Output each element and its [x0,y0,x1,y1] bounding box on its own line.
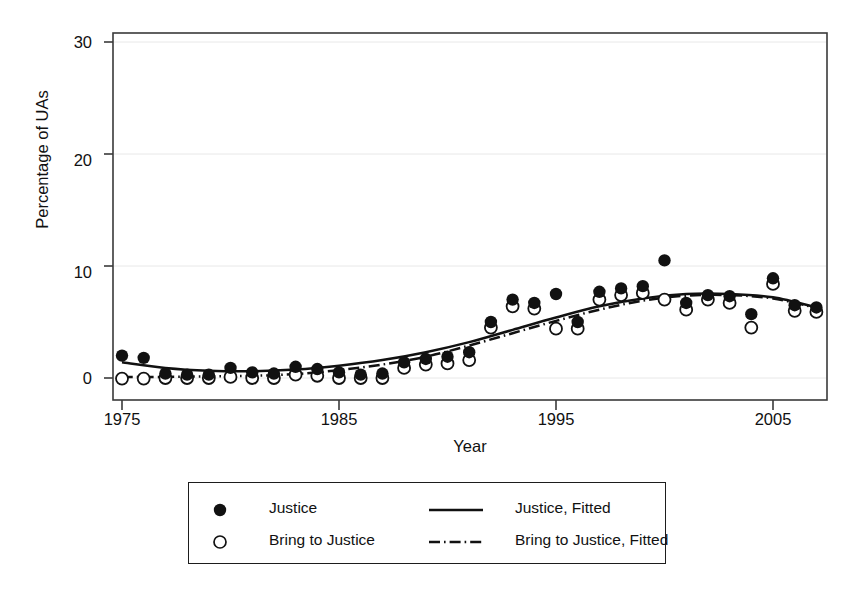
data-point [355,368,367,380]
data-point [268,367,280,379]
open-circle-marker [207,527,269,557]
data-point [659,294,671,306]
legend-entry-bring-to-justice: Bring to Justice [207,527,407,557]
data-point [637,280,649,292]
data-point [333,366,345,378]
dash-dot-line-key [411,527,501,557]
data-point [528,297,540,309]
data-point [767,272,779,284]
legend-label-justice: Justice [269,499,317,517]
data-point [463,346,475,358]
data-point [398,356,410,368]
data-point [745,322,757,334]
data-point [506,293,518,305]
legend-box: Justice Bring to Justice Justice, Fitted… [188,482,666,564]
legend-entry-justice: Justice [207,495,407,525]
data-point [116,373,128,385]
gridlines-group [114,42,826,378]
data-point [159,367,171,379]
data-point [311,363,323,375]
data-point [203,368,215,380]
data-point [702,289,714,301]
data-point [138,352,150,364]
data-point [680,297,692,309]
data-point [181,368,193,380]
data-point [572,316,584,328]
data-point [810,301,822,313]
legend-label-justice-fitted: Justice, Fitted [515,499,611,517]
data-point [550,288,562,300]
data-point [745,308,757,320]
data-point [789,299,801,311]
legend-entry-justice-fitted: Justice, Fitted [411,495,661,525]
data-point [116,349,128,361]
data-point [246,366,258,378]
legend-label-bring-to-justice: Bring to Justice [269,531,375,549]
plot-canvas [0,0,854,470]
data-point [376,367,388,379]
data-point [550,323,562,335]
data-point [289,361,301,373]
data-point [658,254,670,266]
legend-entry-bring-to-justice-fitted: Bring to Justice, Fitted [411,527,661,557]
data-point [485,316,497,328]
legend-label-bring-to-justice-fitted: Bring to Justice, Fitted [515,531,668,549]
data-point [593,286,605,298]
data-point [224,362,236,374]
data-point [723,290,735,302]
solid-line-key [411,495,501,525]
data-point [441,351,453,363]
figure-percentage-of-uas: Percentage of UAs Year 0 10 20 30 1975 1… [0,0,854,613]
figure-caption [100,597,740,611]
data-point [138,373,150,385]
filled-circle-marker [207,495,269,525]
data-point [420,353,432,365]
data-point [615,282,627,294]
